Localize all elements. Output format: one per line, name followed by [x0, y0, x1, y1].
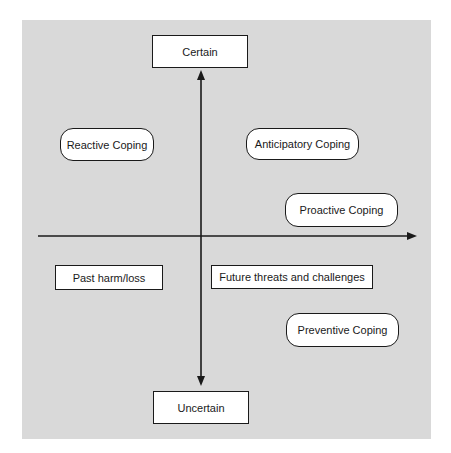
uncertain-label-box: Uncertain [153, 391, 249, 424]
certain-label-box: Certain [152, 35, 248, 68]
past-harm-loss-box: Past harm/loss [55, 265, 163, 290]
reactive-coping-label: Reactive Coping [67, 139, 148, 151]
certain-label: Certain [182, 46, 217, 58]
horizontal-axis-arrowhead-right [407, 232, 417, 240]
anticipatory-coping-node: Anticipatory Coping [246, 128, 359, 160]
reactive-coping-node: Reactive Coping [60, 128, 154, 161]
vertical-axis-arrowhead-up [197, 70, 205, 80]
vertical-axis-arrowhead-down [197, 376, 205, 386]
uncertain-label: Uncertain [177, 402, 224, 414]
preventive-coping-node: Preventive Coping [286, 313, 399, 347]
future-threats-label: Future threats and challenges [219, 271, 365, 283]
anticipatory-coping-label: Anticipatory Coping [255, 138, 350, 150]
proactive-coping-node: Proactive Coping [285, 193, 398, 227]
past-harm-loss-label: Past harm/loss [73, 272, 146, 284]
preventive-coping-label: Preventive Coping [298, 324, 388, 336]
proactive-coping-label: Proactive Coping [300, 204, 384, 216]
future-threats-box: Future threats and challenges [211, 265, 373, 289]
